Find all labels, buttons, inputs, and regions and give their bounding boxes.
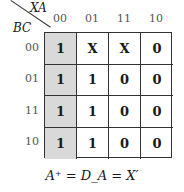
column-header-10: 10 <box>140 12 172 25</box>
column-header-00: 00 <box>44 12 76 25</box>
row-header-00: 00 <box>22 41 42 54</box>
kmap-cell: 1 <box>77 128 109 160</box>
kmap-cell: 1 <box>45 96 77 128</box>
column-header-11: 11 <box>108 12 140 25</box>
kmap-cell: 0 <box>109 128 141 160</box>
equation-caption: A⁺ = D_A = X′ <box>0 168 184 183</box>
kmap-cell: 1 <box>77 65 109 97</box>
row-header-01: 01 <box>22 72 42 85</box>
kmap-cell: 0 <box>109 65 141 97</box>
row-header-11: 11 <box>22 104 42 117</box>
column-header-01: 01 <box>76 12 108 25</box>
kmap-cell: 0 <box>141 128 173 160</box>
kmap-cell: 0 <box>109 96 141 128</box>
kmap-cell: X <box>109 33 141 65</box>
row-variable-label: BC <box>13 21 31 35</box>
karnaugh-map-grid: 1 X X 0 1 1 0 0 1 1 0 0 1 1 0 0 <box>44 32 172 158</box>
kmap-cell: 0 <box>141 33 173 65</box>
kmap-cell: X <box>77 33 109 65</box>
kmap-cell: 1 <box>77 96 109 128</box>
kmap-cell: 1 <box>45 65 77 97</box>
kmap-cell: 1 <box>45 128 77 160</box>
kmap-cell: 0 <box>141 96 173 128</box>
kmap-cell: 1 <box>45 33 77 65</box>
row-header-10: 10 <box>22 135 42 148</box>
kmap-cell: 0 <box>141 65 173 97</box>
